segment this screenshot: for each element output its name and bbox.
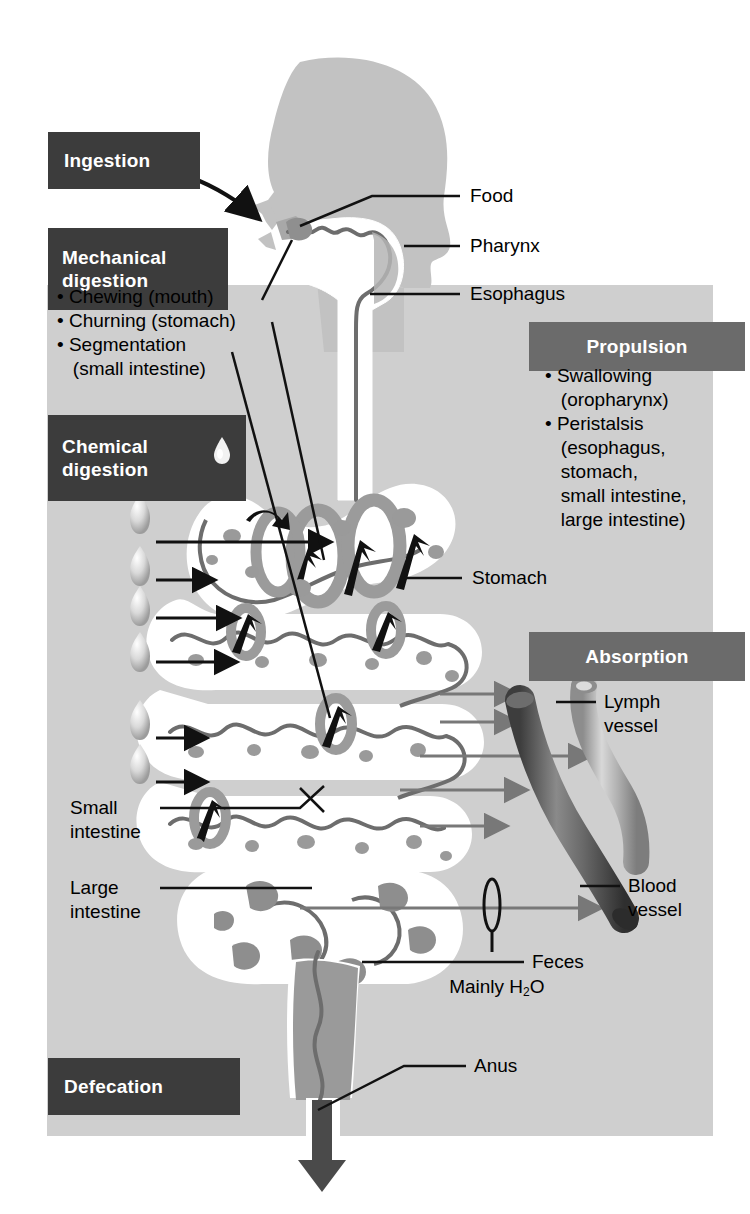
caption-ingestion: Ingestion	[48, 132, 200, 189]
caption-propulsion-label: Propulsion	[586, 335, 687, 358]
propulsion-list-item-1: (oropharynx)	[545, 388, 669, 412]
caption-mechanical-line1: Mechanical	[62, 246, 166, 269]
propulsion-list-item-0: • Swallowing	[545, 364, 652, 388]
caption-ingestion-label: Ingestion	[64, 149, 150, 172]
mechanical-list-item-3: (small intestine)	[57, 357, 206, 381]
droplet-icon	[212, 435, 232, 465]
caption-chemical-line1: Chemical	[62, 435, 148, 458]
propulsion-list-item-4: stomach,	[545, 460, 638, 484]
caption-chemical-line2: digestion	[62, 458, 148, 481]
propulsion-list-item-5: small intestine,	[545, 484, 687, 508]
label-large-intestine-line1: Large	[70, 876, 119, 899]
label-blood-vessel-line1: Blood	[628, 874, 677, 897]
label-mainly-water: Mainly H2O	[428, 952, 545, 1027]
label-lymph-vessel-line1: Lymph	[604, 690, 660, 713]
caption-defecation: Defecation	[48, 1058, 240, 1115]
label-esophagus: Esophagus	[470, 282, 565, 305]
label-lymph-vessel-line2: vessel	[604, 714, 658, 737]
label-mainly-water-subscript: 2	[523, 985, 530, 999]
mechanical-list-item-0: • Chewing (mouth)	[57, 285, 214, 309]
caption-chemical-digestion: Chemical digestion	[48, 415, 246, 501]
ingestion-arrow-icon	[192, 178, 258, 218]
label-food: Food	[470, 184, 513, 207]
label-feces: Feces	[532, 950, 584, 973]
diagram-canvas: Ingestion Mechanical digestion Chemical …	[0, 0, 750, 1214]
label-pharynx: Pharynx	[470, 234, 540, 257]
caption-absorption-label: Absorption	[585, 645, 688, 668]
caption-defecation-label: Defecation	[64, 1075, 163, 1098]
mechanical-list-item-1: • Churning (stomach)	[57, 309, 236, 333]
propulsion-list-item-6: large intestine)	[545, 508, 685, 532]
label-anus: Anus	[474, 1054, 517, 1077]
label-stomach: Stomach	[472, 566, 547, 589]
caption-absorption: Absorption	[529, 632, 745, 681]
label-blood-vessel-line2: vessel	[628, 898, 682, 921]
label-small-intestine-line1: Small	[70, 796, 118, 819]
propulsion-list-item-3: (esophagus,	[545, 436, 665, 460]
label-small-intestine-line2: intestine	[70, 820, 141, 843]
label-mainly-water-post: O	[530, 976, 545, 997]
label-large-intestine-line2: intestine	[70, 900, 141, 923]
label-mainly-water-pre: Mainly H	[449, 976, 523, 997]
propulsion-list-item-2: • Peristalsis	[545, 412, 644, 436]
mechanical-list-item-2: • Segmentation	[57, 333, 186, 357]
